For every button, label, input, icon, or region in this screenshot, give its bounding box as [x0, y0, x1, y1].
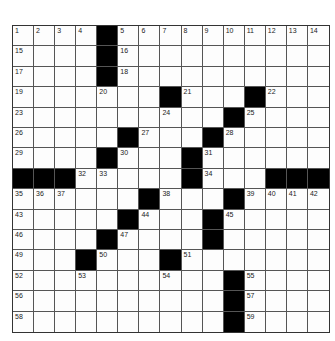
grid-cell[interactable]	[308, 250, 329, 270]
grid-cell[interactable]: 32	[76, 169, 97, 189]
grid-cell[interactable]	[55, 46, 76, 66]
grid-cell[interactable]	[245, 169, 266, 189]
grid-cell[interactable]	[118, 291, 139, 311]
grid-cell[interactable]	[203, 271, 224, 291]
grid-cell[interactable]	[182, 312, 203, 332]
grid-cell[interactable]	[203, 250, 224, 270]
grid-cell[interactable]	[76, 230, 97, 250]
grid-cell[interactable]: 13	[287, 26, 308, 46]
grid-cell[interactable]: 46	[13, 230, 34, 250]
grid-cell[interactable]	[97, 271, 118, 291]
grid-cell[interactable]	[245, 148, 266, 168]
grid-cell[interactable]	[160, 148, 181, 168]
grid-cell[interactable]	[34, 230, 55, 250]
grid-cell[interactable]	[55, 87, 76, 107]
grid-cell[interactable]	[97, 128, 118, 148]
grid-cell[interactable]	[76, 210, 97, 230]
grid-cell[interactable]	[266, 46, 287, 66]
grid-cell[interactable]: 53	[76, 271, 97, 291]
grid-cell[interactable]	[203, 291, 224, 311]
grid-cell[interactable]: 59	[245, 312, 266, 332]
grid-cell[interactable]	[224, 46, 245, 66]
grid-cell[interactable]	[139, 67, 160, 87]
grid-cell[interactable]	[76, 128, 97, 148]
grid-cell[interactable]: 27	[139, 128, 160, 148]
grid-cell[interactable]	[118, 108, 139, 128]
grid-cell[interactable]: 34	[203, 169, 224, 189]
grid-cell[interactable]	[76, 87, 97, 107]
grid-cell[interactable]	[160, 169, 181, 189]
grid-cell[interactable]: 57	[245, 291, 266, 311]
grid-cell[interactable]	[34, 271, 55, 291]
grid-cell[interactable]	[97, 291, 118, 311]
grid-cell[interactable]	[34, 128, 55, 148]
grid-cell[interactable]	[118, 169, 139, 189]
grid-cell[interactable]	[139, 250, 160, 270]
grid-cell[interactable]: 50	[97, 250, 118, 270]
grid-cell[interactable]	[55, 108, 76, 128]
grid-cell[interactable]	[139, 230, 160, 250]
grid-cell[interactable]	[308, 230, 329, 250]
grid-cell[interactable]: 51	[182, 250, 203, 270]
grid-cell[interactable]	[203, 67, 224, 87]
grid-cell[interactable]: 4	[76, 26, 97, 46]
grid-cell[interactable]: 15	[13, 46, 34, 66]
grid-cell[interactable]: 11	[245, 26, 266, 46]
grid-cell[interactable]	[76, 148, 97, 168]
grid-cell[interactable]	[139, 291, 160, 311]
grid-cell[interactable]	[118, 87, 139, 107]
grid-cell[interactable]: 31	[203, 148, 224, 168]
grid-cell[interactable]	[203, 46, 224, 66]
grid-cell[interactable]	[34, 87, 55, 107]
grid-cell[interactable]	[160, 46, 181, 66]
grid-cell[interactable]	[182, 108, 203, 128]
grid-cell[interactable]: 38	[160, 189, 181, 209]
grid-cell[interactable]	[287, 230, 308, 250]
grid-cell[interactable]: 36	[34, 189, 55, 209]
grid-cell[interactable]: 12	[266, 26, 287, 46]
grid-cell[interactable]	[118, 312, 139, 332]
grid-cell[interactable]: 22	[266, 87, 287, 107]
grid-cell[interactable]	[266, 210, 287, 230]
grid-cell[interactable]	[308, 46, 329, 66]
grid-cell[interactable]	[287, 312, 308, 332]
grid-cell[interactable]	[55, 128, 76, 148]
grid-cell[interactable]	[245, 46, 266, 66]
grid-cell[interactable]	[182, 210, 203, 230]
grid-cell[interactable]: 25	[245, 108, 266, 128]
grid-cell[interactable]	[182, 67, 203, 87]
grid-cell[interactable]	[308, 87, 329, 107]
grid-cell[interactable]	[182, 128, 203, 148]
grid-cell[interactable]	[76, 291, 97, 311]
grid-cell[interactable]	[160, 210, 181, 230]
grid-cell[interactable]	[287, 250, 308, 270]
grid-cell[interactable]: 3	[55, 26, 76, 46]
grid-cell[interactable]	[160, 128, 181, 148]
grid-cell[interactable]	[266, 108, 287, 128]
grid-cell[interactable]: 24	[160, 108, 181, 128]
grid-cell[interactable]: 17	[13, 67, 34, 87]
grid-cell[interactable]	[34, 108, 55, 128]
grid-cell[interactable]: 8	[182, 26, 203, 46]
grid-cell[interactable]	[34, 148, 55, 168]
grid-cell[interactable]: 20	[97, 87, 118, 107]
grid-cell[interactable]	[160, 291, 181, 311]
grid-cell[interactable]: 43	[13, 210, 34, 230]
grid-cell[interactable]	[287, 271, 308, 291]
grid-cell[interactable]: 49	[13, 250, 34, 270]
grid-cell[interactable]	[203, 189, 224, 209]
grid-cell[interactable]	[287, 108, 308, 128]
grid-cell[interactable]	[34, 250, 55, 270]
grid-cell[interactable]	[139, 271, 160, 291]
grid-cell[interactable]	[118, 271, 139, 291]
grid-cell[interactable]	[139, 108, 160, 128]
grid-cell[interactable]	[287, 87, 308, 107]
grid-cell[interactable]	[55, 291, 76, 311]
grid-cell[interactable]	[287, 128, 308, 148]
grid-cell[interactable]	[245, 250, 266, 270]
grid-cell[interactable]	[139, 87, 160, 107]
grid-cell[interactable]	[182, 291, 203, 311]
grid-cell[interactable]: 28	[224, 128, 245, 148]
grid-cell[interactable]	[139, 148, 160, 168]
grid-cell[interactable]	[139, 46, 160, 66]
